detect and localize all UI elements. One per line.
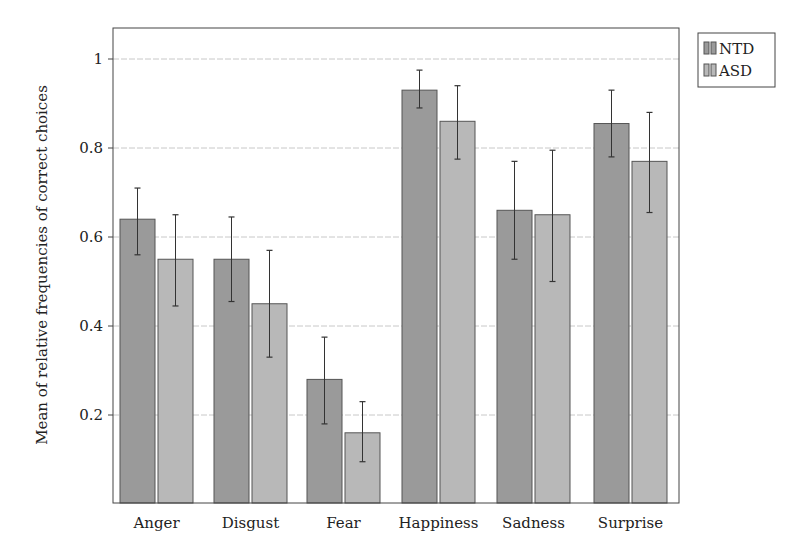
x-category-label: Surprise [598, 514, 663, 532]
error-bars [135, 70, 653, 462]
bar-ntd-surprise [594, 124, 629, 503]
y-tick-label: 0.4 [79, 317, 103, 335]
legend: NTDASD [698, 33, 775, 87]
y-tick-label: 0.6 [79, 228, 103, 246]
y-tick-label: 0.8 [79, 139, 103, 157]
legend-swatch [711, 42, 716, 54]
x-category-label: Happiness [399, 514, 479, 532]
x-axis-categories: AngerDisgustFearHappinessSadnessSurprise [132, 514, 663, 532]
bar-chart: 0.20.40.60.81 AngerDisgustFearHappinessS… [0, 0, 812, 560]
bar-asd-happiness [440, 121, 475, 503]
legend-swatch [704, 42, 709, 54]
y-axis-ticks: 0.20.40.60.81 [79, 50, 113, 424]
legend-label: NTD [719, 40, 754, 58]
bars [120, 90, 667, 503]
x-category-label: Sadness [502, 514, 565, 532]
bar-ntd-happiness [402, 90, 437, 503]
x-category-label: Disgust [222, 514, 280, 532]
legend-swatch [704, 64, 709, 76]
bar-ntd-anger [120, 219, 155, 503]
legend-swatch [711, 64, 716, 76]
x-category-label: Anger [132, 514, 180, 532]
y-axis-title: Mean of relative frequencies of correct … [33, 85, 51, 445]
legend-label: ASD [718, 62, 752, 80]
y-tick-label: 0.2 [79, 406, 103, 424]
x-category-label: Fear [326, 514, 361, 532]
y-tick-label: 1 [93, 50, 103, 68]
